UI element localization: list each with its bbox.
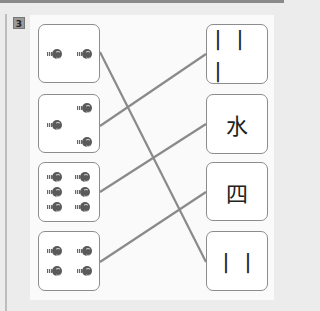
counter-icon: [77, 266, 93, 276]
match-line-3-to-2[interactable]: [100, 124, 206, 192]
counter-icon: [47, 266, 63, 276]
left-item-2[interactable]: [38, 94, 100, 153]
right-item-1[interactable]: 丨丨丨: [206, 24, 268, 84]
counter-icon: [47, 120, 63, 130]
right-item-2[interactable]: 水: [206, 94, 268, 154]
counter-icon: [47, 202, 63, 212]
numeral-water-like: 水: [207, 95, 267, 153]
numeral-four: 四: [207, 163, 267, 220]
left-item-1[interactable]: [38, 24, 100, 83]
left-item-3[interactable]: [38, 162, 100, 222]
counter-icon: [47, 49, 63, 59]
counter-icon: [77, 137, 93, 147]
numeral-three-strokes: 丨丨丨: [207, 25, 267, 83]
counter-icon: [77, 246, 93, 256]
counter-icon: [47, 172, 63, 182]
match-line-4-to-3[interactable]: [100, 192, 206, 262]
counter-icon: [77, 49, 93, 59]
counter-icon: [47, 246, 63, 256]
counter-icon: [47, 187, 63, 197]
numeral-two-strokes: 丨丨: [207, 232, 267, 290]
right-item-4[interactable]: 丨丨: [206, 231, 268, 291]
right-item-3[interactable]: 四: [206, 162, 268, 221]
left-item-4[interactable]: [38, 231, 100, 291]
counter-icon: [75, 187, 91, 197]
counter-icon: [77, 103, 93, 113]
counter-icon: [75, 172, 91, 182]
match-line-2-to-1[interactable]: [100, 54, 206, 126]
counter-icon: [75, 202, 91, 212]
